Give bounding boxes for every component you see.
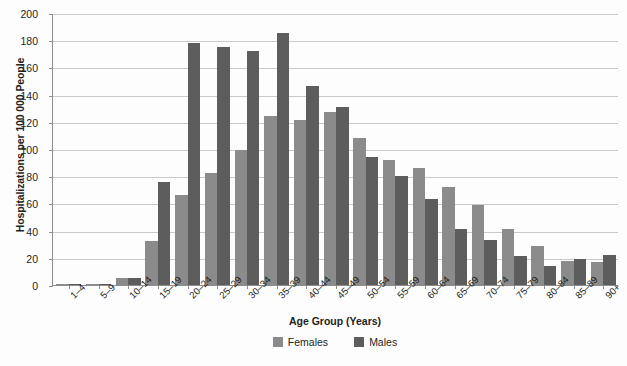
y-tick-label: 120 [0,117,38,129]
y-tick-mark [49,96,53,97]
bar-males [306,86,318,285]
y-tick-mark [49,68,53,69]
y-tick-label: 60 [0,198,38,210]
legend-item-males[interactable]: Males [354,336,397,348]
x-tick-cell: 60–64 [410,288,440,314]
x-tick-cell: 40–44 [291,288,321,314]
y-tick-mark [49,14,53,15]
bar-males [188,43,200,285]
bar-males [455,229,467,285]
hospitalizations-bar-chart: Hospitalizations per 100 000 People 2001… [0,0,627,366]
x-tick-cell: 1–4 [53,288,83,314]
y-tick-label: 80 [0,171,38,183]
bar-males [217,47,229,285]
bar-group [351,13,381,285]
x-tick-cell: 75–79 [499,288,529,314]
bar-females [413,168,425,285]
x-tick-cell: 25–29 [202,288,232,314]
bar-females [383,160,395,285]
bar-group [440,13,470,285]
female-swatch [273,337,283,347]
bar-group [559,13,589,285]
y-tick-label: 180 [0,35,38,47]
bar-group [588,13,618,285]
chart-legend: FemalesMales [52,336,618,348]
x-tick-cell: 35–39 [261,288,291,314]
bar-group [499,13,529,285]
x-axis-title: Age Group (Years) [52,315,618,327]
y-tick-label: 160 [0,62,38,74]
y-tick-label: 20 [0,253,38,265]
bar-males [277,33,289,285]
bar-group [143,13,173,285]
x-tick-cell: 10–14 [112,288,142,314]
x-tick-cell: 30–34 [231,288,261,314]
bar-females [353,138,365,285]
bar-group [232,13,262,285]
y-tick-mark [49,177,53,178]
bar-group [529,13,559,285]
bar-males [484,240,496,285]
bar-males [158,182,170,285]
legend-label: Females [288,336,328,348]
bar-group [292,13,322,285]
bar-group [54,13,84,285]
bar-males [336,107,348,285]
legend-item-females[interactable]: Females [273,336,328,348]
bar-females [294,120,306,285]
bar-males [425,199,437,285]
y-tick-mark [49,204,53,205]
legend-label: Males [369,336,397,348]
bar-females [235,150,247,285]
x-tick-cell: 70–74 [469,288,499,314]
bar-females [264,116,276,285]
bar-group [321,13,351,285]
bar-group [173,13,203,285]
bar-females [175,195,187,285]
bar-group [113,13,143,285]
bar-group [381,13,411,285]
y-tick-label: 140 [0,90,38,102]
bar-group [470,13,500,285]
bar-females [205,173,217,285]
x-tick-cell: 80–84 [529,288,559,314]
bar-females [86,284,98,285]
bar-females [442,187,454,285]
y-tick-mark [49,41,53,42]
bar-females [324,112,336,285]
y-tick-label: 0 [0,280,38,292]
x-tick-cell: 85–89 [558,288,588,314]
bar-males [366,157,378,285]
bar-group [410,13,440,285]
y-tick-mark [49,259,53,260]
x-tick-cell: 5–9 [83,288,113,314]
x-tick-cell: 90+ [588,288,618,314]
y-tick-mark [49,232,53,233]
x-tick-cell: 55–59 [380,288,410,314]
bar-group [84,13,114,285]
male-swatch [354,337,364,347]
x-tick-cell: 50–54 [350,288,380,314]
x-axis-ticks: 1–45–910–1415–1920–2425–2930–3435–3940–4… [53,288,618,314]
y-tick-label: 200 [0,8,38,20]
x-tick-cell: 65–69 [440,288,470,314]
plot-area: 200180160140120100806040200 [52,14,618,286]
bar-group [262,13,292,285]
x-tick-cell: 20–24 [172,288,202,314]
bar-females [56,284,68,285]
y-tick-mark [49,150,53,151]
bar-males [395,176,407,285]
bar-females [116,278,128,285]
bar-females [472,205,484,285]
y-tick-label: 40 [0,226,38,238]
y-tick-mark [49,286,53,287]
y-tick-label: 100 [0,144,38,156]
x-tick-cell: 45–49 [321,288,351,314]
bar-group [202,13,232,285]
bar-groups [54,13,618,285]
x-tick-cell: 15–19 [142,288,172,314]
bar-males [247,51,259,285]
y-tick-mark [49,123,53,124]
